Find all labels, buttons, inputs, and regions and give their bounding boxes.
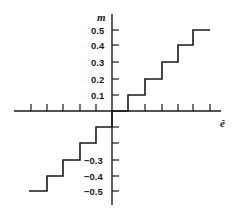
x-axis-title: ê <box>220 117 225 129</box>
y-tick-label: 0.3 <box>91 57 104 68</box>
y-tick-label: 0.4 <box>91 40 105 51</box>
y-tick-label: 0.1 <box>91 90 105 101</box>
step-chart: m 0.5 0.4 0.3 0.2 0.1 −0.3 −0.4 −0.5 ê <box>0 0 238 216</box>
y-tick-label: −0.5 <box>84 186 103 197</box>
y-tick-label: −0.3 <box>84 155 103 166</box>
y-tick-label: −0.4 <box>84 171 103 182</box>
chart-root: m 0.5 0.4 0.3 0.2 0.1 −0.3 −0.4 −0.5 ê <box>0 0 238 216</box>
y-tick-label: 0.5 <box>91 25 105 36</box>
x-ticks <box>31 104 210 111</box>
y-axis-title: m <box>97 11 106 23</box>
y-tick-label: 0.2 <box>91 74 104 85</box>
